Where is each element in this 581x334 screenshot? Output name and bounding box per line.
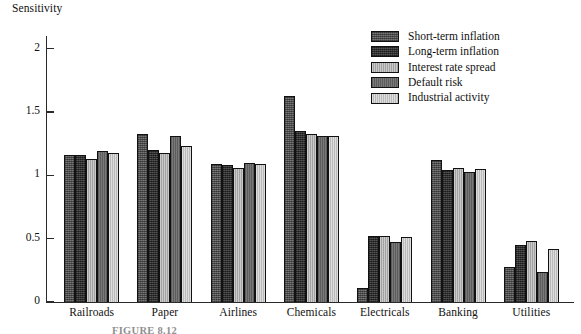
legend-item-4: Industrial activity [371, 92, 500, 105]
bar-railroads-1 [75, 155, 86, 302]
legend-swatch-3 [371, 77, 399, 88]
bar-electricals-3 [390, 242, 401, 302]
legend-item-0: Short-term inflation [371, 30, 500, 43]
y-tick-label-0: 0 [6, 295, 40, 307]
x-axis-category-labels: RailroadsPaperAirlinesChemicalsElectrica… [47, 306, 574, 326]
bar-chemicals-4 [328, 136, 339, 302]
legend-item-1: Long-term inflation [371, 45, 500, 58]
bar-airlines-1 [222, 165, 233, 302]
bar-banking-3 [464, 172, 475, 302]
bar-group-paper [128, 36, 201, 302]
bar-electricals-2 [379, 236, 390, 302]
bar-utilities-1 [515, 245, 526, 302]
y-tick-label-2: 2 [6, 42, 40, 54]
bar-electricals-1 [368, 236, 379, 302]
bar-utilities-3 [537, 272, 548, 302]
y-tick-label-1: 1 [6, 168, 40, 180]
bar-paper-3 [170, 136, 181, 302]
bar-chart: Sensitivity 00.511.52 RailroadsPaperAirl… [0, 0, 581, 334]
bar-banking-2 [453, 168, 464, 302]
legend-item-3: Default risk [371, 76, 500, 89]
bar-railroads-3 [97, 151, 108, 302]
legend-swatch-4 [371, 93, 399, 104]
bar-group-railroads [55, 36, 128, 302]
category-label-paper: Paper [128, 306, 201, 326]
y-axis-title: Sensitivity [12, 2, 62, 14]
bar-group-chemicals [275, 36, 348, 302]
bar-utilities-4 [548, 249, 559, 302]
figure-caption: FIGURE 8.12 [112, 325, 177, 334]
y-tick-label-0.5: 0.5 [6, 232, 40, 244]
bar-railroads-2 [86, 159, 97, 302]
bar-airlines-2 [233, 168, 244, 302]
category-label-utilities: Utilities [495, 306, 568, 326]
category-label-electricals: Electricals [348, 306, 421, 326]
x-axis-line [46, 302, 574, 303]
bar-airlines-4 [255, 164, 266, 302]
bar-banking-0 [431, 160, 442, 302]
legend-item-2: Interest rate spread [371, 61, 500, 74]
bar-group-utilities [495, 36, 568, 302]
bar-airlines-0 [211, 164, 222, 302]
bar-chemicals-0 [284, 96, 295, 302]
bar-paper-0 [137, 134, 148, 302]
legend-label-0: Short-term inflation [408, 31, 500, 43]
bar-paper-4 [181, 146, 192, 302]
bar-utilities-0 [504, 267, 515, 302]
bar-chemicals-3 [317, 136, 328, 302]
bar-airlines-3 [244, 163, 255, 302]
legend: Short-term inflationLong-term inflationI… [371, 30, 500, 105]
category-label-chemicals: Chemicals [275, 306, 348, 326]
legend-label-3: Default risk [408, 77, 463, 89]
bar-group-airlines [202, 36, 275, 302]
legend-swatch-0 [371, 31, 399, 42]
bar-railroads-4 [108, 153, 119, 302]
legend-label-1: Long-term inflation [408, 46, 499, 58]
legend-swatch-1 [371, 46, 399, 57]
bar-utilities-2 [526, 241, 537, 302]
bar-paper-2 [159, 153, 170, 302]
bar-chemicals-2 [306, 134, 317, 302]
category-label-airlines: Airlines [202, 306, 275, 326]
category-label-railroads: Railroads [55, 306, 128, 326]
bar-banking-1 [442, 170, 453, 302]
category-label-banking: Banking [421, 306, 494, 326]
bar-railroads-0 [64, 155, 75, 302]
bar-banking-4 [475, 169, 486, 302]
y-tick-label-1.5: 1.5 [6, 105, 40, 117]
legend-label-2: Interest rate spread [408, 62, 495, 74]
bar-paper-1 [148, 150, 159, 302]
bar-electricals-0 [357, 288, 368, 302]
bar-electricals-4 [401, 237, 412, 302]
bar-chemicals-1 [295, 131, 306, 302]
legend-label-4: Industrial activity [408, 92, 489, 104]
legend-swatch-2 [371, 62, 399, 73]
